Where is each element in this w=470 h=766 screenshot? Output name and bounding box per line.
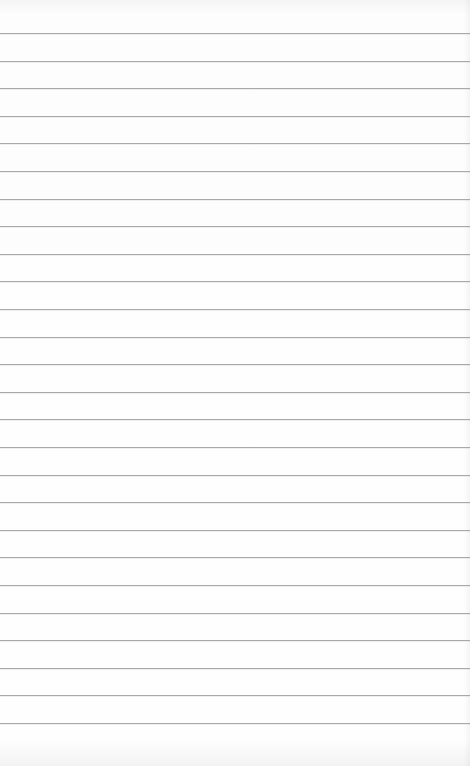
ruled-line — [0, 668, 470, 669]
ruled-line — [0, 695, 470, 696]
lined-paper-sheet — [0, 0, 470, 766]
ruled-line — [0, 33, 470, 34]
ruled-line — [0, 475, 470, 476]
ruled-line — [0, 143, 470, 144]
ruled-line — [0, 199, 470, 200]
ruled-line — [0, 557, 470, 558]
ruled-line — [0, 337, 470, 338]
ruled-line — [0, 88, 470, 89]
ruled-line — [0, 613, 470, 614]
ruled-line — [0, 309, 470, 310]
ruled-line — [0, 447, 470, 448]
ruled-line — [0, 254, 470, 255]
ruled-line — [0, 226, 470, 227]
ruled-line — [0, 61, 470, 62]
ruled-line — [0, 723, 470, 724]
ruled-line — [0, 116, 470, 117]
ruled-line — [0, 364, 470, 365]
ruled-line — [0, 392, 470, 393]
ruled-line — [0, 585, 470, 586]
ruled-line — [0, 530, 470, 531]
ruled-line — [0, 502, 470, 503]
ruled-line — [0, 171, 470, 172]
ruled-line — [0, 419, 470, 420]
ruled-line — [0, 640, 470, 641]
ruled-line — [0, 281, 470, 282]
paper-edge-shadow — [464, 0, 470, 766]
